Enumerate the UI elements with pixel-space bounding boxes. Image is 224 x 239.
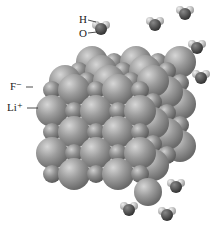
oxygen-atom (179, 8, 191, 20)
water-molecule (167, 179, 185, 193)
oxygen-atom (149, 19, 161, 31)
oxygen-atom (170, 181, 182, 193)
water-molecule (92, 21, 110, 35)
label-oxygen: O (79, 27, 97, 39)
lithium-label: Li⁺ (7, 101, 23, 113)
water-molecule (192, 70, 210, 84)
oxygen-atom (161, 209, 173, 221)
water-molecule (120, 202, 138, 216)
fluoride-ion (102, 158, 134, 190)
hydrogen-label: H (79, 13, 87, 25)
fluoride-label: F⁻ (10, 80, 22, 92)
water-molecule (146, 17, 164, 31)
oxygen-atom (191, 42, 203, 54)
oxygen-label: O (79, 27, 87, 39)
lif-dissolution-diagram: H O F⁻ Li⁺ (0, 0, 224, 239)
water-molecule (158, 207, 176, 221)
label-fluoride: F⁻ (10, 80, 33, 92)
label-lithium: Li⁺ (7, 101, 38, 113)
oxygen-atom (195, 72, 207, 84)
oxygen-atom (95, 23, 107, 35)
fluoride-ion-dissolved (134, 178, 162, 206)
fluoride-ion (58, 158, 90, 190)
water-molecule (176, 6, 194, 20)
oxygen-atom (123, 204, 135, 216)
